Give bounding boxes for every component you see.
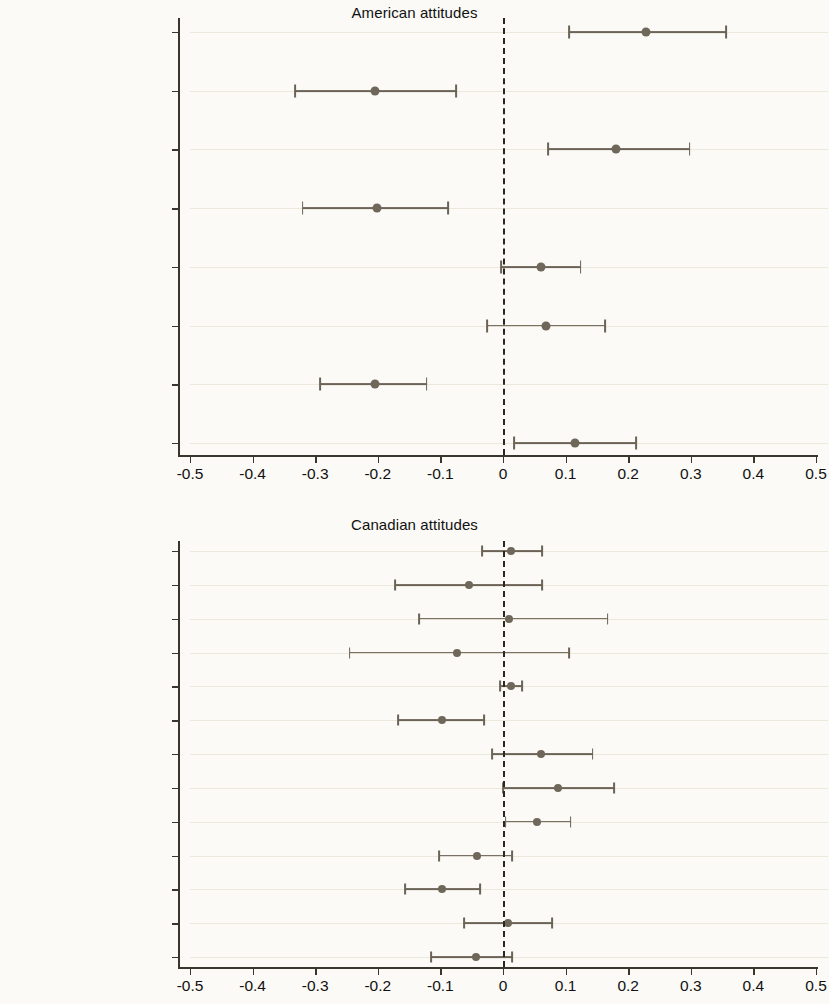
x-axis-tick — [628, 968, 629, 975]
y-axis-tick — [172, 551, 179, 552]
point-estimate-marker — [541, 321, 550, 330]
point-estimate-marker — [641, 28, 650, 37]
point-estimate-marker — [507, 682, 515, 690]
gridline — [190, 889, 828, 890]
confidence-interval-bar — [419, 618, 607, 620]
y-axis-tick — [172, 822, 179, 823]
y-axis-tick — [172, 923, 179, 924]
confidence-interval-cap — [511, 952, 513, 963]
confidence-interval-cap — [438, 850, 440, 861]
y-axis-tick — [172, 720, 179, 721]
x-axis-tick-label: 0.2 — [598, 465, 658, 483]
x-axis-tick — [691, 968, 692, 975]
y-axis-line — [178, 18, 180, 455]
zero-reference-line — [503, 541, 505, 967]
y-axis-tick — [172, 32, 179, 33]
confidence-interval-cap — [726, 26, 728, 39]
x-axis-tick-label: -0.1 — [410, 977, 470, 995]
x-axis-line — [178, 967, 818, 969]
confidence-interval-cap — [604, 319, 606, 332]
y-axis-tick — [172, 326, 179, 327]
confidence-interval-cap — [547, 143, 549, 156]
confidence-interval-cap — [486, 319, 488, 332]
x-axis-tick — [378, 456, 379, 463]
confidence-interval-cap — [447, 202, 449, 215]
confidence-interval-cap — [479, 884, 481, 895]
x-axis-tick — [503, 968, 504, 975]
y-axis-tick — [172, 653, 179, 654]
y-axis-tick — [172, 91, 179, 92]
confidence-interval-cap — [580, 260, 582, 273]
zero-reference-line — [503, 18, 505, 455]
confidence-interval-cap — [491, 749, 493, 760]
confidence-interval-cap — [689, 143, 691, 156]
x-axis-tick-label: 0.2 — [598, 977, 658, 995]
confidence-interval-cap — [481, 546, 483, 557]
y-axis-tick — [172, 585, 179, 586]
x-axis-tick-label: -0.1 — [410, 465, 470, 483]
x-axis-tick — [753, 456, 754, 463]
point-estimate-marker — [370, 86, 379, 95]
x-axis-tick — [816, 456, 817, 463]
confidence-interval-cap — [511, 850, 513, 861]
confidence-interval-cap — [302, 202, 304, 215]
gridline — [190, 208, 828, 209]
x-axis-tick — [566, 456, 567, 463]
y-axis-tick — [172, 208, 179, 209]
point-estimate-marker — [611, 145, 620, 154]
x-axis-tick-label: 0.1 — [536, 465, 596, 483]
x-axis-tick-label: -0.5 — [160, 465, 220, 483]
confidence-interval-cap — [483, 715, 485, 726]
confidence-interval-cap — [568, 647, 570, 658]
gridline — [190, 149, 828, 150]
point-estimate-marker — [507, 547, 515, 555]
x-axis-tick — [628, 456, 629, 463]
x-axis-tick — [253, 968, 254, 975]
x-axis-tick-label: -0.2 — [348, 977, 408, 995]
x-axis-tick-label: -0.5 — [160, 977, 220, 995]
gridline — [190, 443, 828, 444]
confidence-interval-cap — [500, 681, 502, 692]
panel-american-attitudes: American attitudes -0.5-0.4-0.3-0.2-0.10… — [0, 0, 829, 492]
x-axis-tick — [315, 968, 316, 975]
point-estimate-marker — [473, 852, 481, 860]
panel-title-american: American attitudes — [0, 4, 829, 21]
confidence-interval-cap — [394, 579, 396, 590]
x-axis-tick-label: 0 — [473, 977, 533, 995]
x-axis-tick-label: -0.4 — [223, 465, 283, 483]
y-axis-tick — [172, 788, 179, 789]
gridline — [190, 720, 828, 721]
x-axis-tick — [503, 456, 504, 463]
point-estimate-marker — [505, 615, 513, 623]
y-axis-tick — [172, 443, 179, 444]
confidence-interval-cap — [500, 260, 502, 273]
confidence-interval-cap — [294, 84, 296, 97]
confidence-interval-cap — [513, 437, 515, 450]
y-axis-tick — [172, 149, 179, 150]
x-axis-tick — [753, 968, 754, 975]
x-axis-tick-label: 0.4 — [723, 465, 783, 483]
point-estimate-marker — [537, 750, 545, 758]
confidence-interval-cap — [397, 715, 399, 726]
point-estimate-marker — [533, 818, 541, 826]
confidence-interval-cap — [635, 437, 637, 450]
x-axis-tick — [378, 968, 379, 975]
y-axis-tick — [172, 267, 179, 268]
x-axis-tick-label: 0.4 — [723, 977, 783, 995]
x-axis-tick — [315, 456, 316, 463]
confidence-interval-cap — [541, 546, 543, 557]
point-estimate-marker — [472, 953, 480, 961]
y-axis-tick — [172, 754, 179, 755]
confidence-interval-cap — [570, 816, 572, 827]
x-axis-tick-label: -0.3 — [285, 465, 345, 483]
x-axis-tick — [566, 968, 567, 975]
confidence-interval-cap — [541, 579, 543, 590]
gridline — [190, 384, 828, 385]
point-estimate-marker — [570, 439, 579, 448]
point-estimate-marker — [372, 204, 381, 213]
panel-title-canadian: Canadian attitudes — [0, 516, 829, 533]
x-axis-tick — [253, 456, 254, 463]
point-estimate-marker — [536, 262, 545, 271]
confidence-interval-cap — [426, 378, 428, 391]
x-axis-line — [178, 455, 818, 457]
